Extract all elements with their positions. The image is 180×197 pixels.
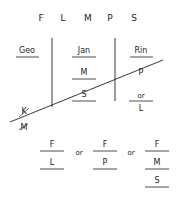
column-item: Rin	[135, 46, 148, 55]
option-item: L	[50, 158, 55, 167]
header-letter: L	[60, 13, 65, 23]
options-row: F L or F P or F M S	[40, 140, 169, 187]
struck-item: K	[21, 107, 27, 116]
option-item: F	[155, 140, 160, 149]
column-item: Jan	[77, 46, 90, 55]
or-connector: or	[75, 149, 82, 157]
column-3: Rin P or L	[129, 46, 153, 113]
column-item: Geo	[19, 46, 35, 55]
struck-item: M	[21, 123, 28, 132]
column-2: Jan M S	[72, 46, 96, 101]
diagram-canvas: F L M P S Geo Jan M S Rin P or L K M	[0, 0, 180, 197]
column-item: L	[139, 104, 144, 113]
struck-items: K M	[19, 107, 29, 132]
header-letter: P	[107, 13, 113, 23]
column-1: Geo	[16, 46, 39, 57]
option-item: F	[50, 140, 55, 149]
header-letter: F	[38, 13, 43, 23]
column-item: M	[81, 68, 88, 77]
option-item: F	[103, 140, 108, 149]
or-connector: or	[127, 149, 134, 157]
header-letters: F L M P S	[38, 13, 137, 23]
option-item: P	[103, 158, 108, 167]
header-letter: S	[131, 13, 137, 23]
option-item: S	[154, 176, 159, 185]
header-letter: M	[84, 13, 92, 23]
option-item: M	[154, 158, 161, 167]
or-connector: or	[137, 92, 144, 100]
